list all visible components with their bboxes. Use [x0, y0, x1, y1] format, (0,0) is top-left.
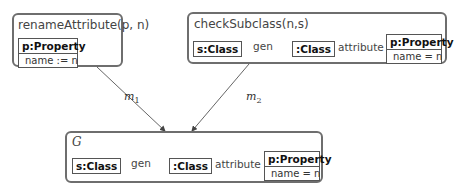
node-header: s:Class — [73, 159, 120, 173]
node-attribute: name := n — [19, 53, 77, 67]
morphism-base: m — [124, 90, 134, 103]
rule-title: renameAttribute(p, n) — [18, 18, 149, 32]
node-header: s:Class — [194, 42, 241, 56]
s-class-node: s:Class — [193, 41, 242, 57]
anon-class-node: :Class — [169, 158, 212, 174]
rule-title: checkSubclass(n,s) — [194, 17, 309, 31]
anon-class-node: :Class — [292, 41, 335, 57]
morphism-subscript: 1 — [134, 96, 139, 105]
morphism-label-m2: m2 — [246, 90, 262, 105]
edge-label-gen: gen — [252, 40, 274, 52]
edge-label-gen: gen — [130, 157, 152, 169]
node-header: :Class — [293, 42, 334, 56]
node-header: p:Property — [387, 35, 441, 49]
graph-title: G — [72, 135, 82, 149]
s-class-node: s:Class — [72, 158, 121, 174]
morphism-subscript: 2 — [256, 96, 261, 105]
node-header: p:Property — [265, 152, 319, 166]
node-header: p:Property — [19, 39, 77, 53]
node-attribute: name = n — [265, 166, 319, 180]
property-node: p:Property name = n — [264, 151, 320, 181]
rule-rename-attribute: renameAttribute(p, n) p:Property name :=… — [12, 13, 123, 67]
morphism-base: m — [246, 90, 256, 103]
property-node: p:Property name = n — [386, 34, 442, 64]
graph-g: G s:Class :Class p:Property name = n gen… — [65, 131, 323, 183]
node-header: :Class — [170, 159, 211, 173]
edge-label-attribute: attribute — [337, 41, 385, 53]
rule-check-subclass: checkSubclass(n,s) s:Class :Class p:Prop… — [187, 12, 447, 64]
morphism-label-m1: m1 — [124, 90, 140, 105]
node-attribute: name = n — [387, 49, 441, 63]
property-node: p:Property name := n — [18, 38, 78, 68]
edge-label-attribute: attribute — [214, 158, 262, 170]
